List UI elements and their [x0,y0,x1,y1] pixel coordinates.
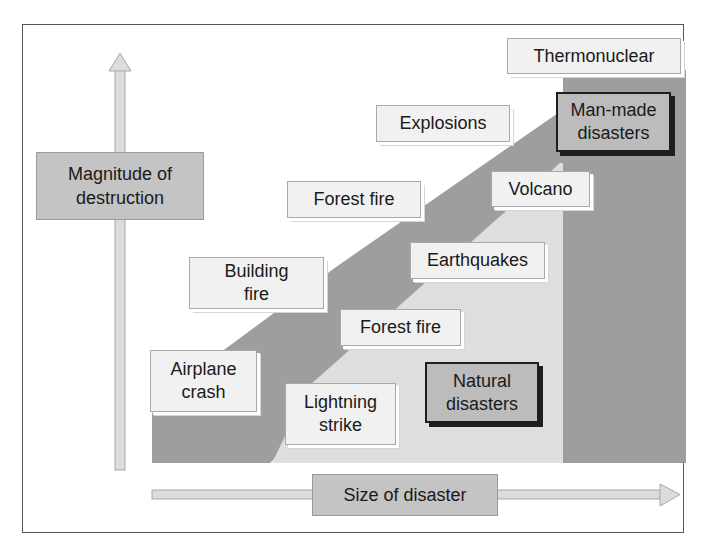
y-axis-arrow [109,53,131,470]
event-explosions: Explosions [376,105,510,142]
x-axis-label: Size of disaster [312,474,498,516]
y-axis-label: Magnitude of destruction [36,152,204,220]
event-lightning-strike: Lightning strike [285,383,396,445]
event-volcano: Volcano [491,171,590,207]
category-man-made: Man-made disasters [556,92,671,152]
event-forest-fire-man-made: Forest fire [287,181,421,218]
event-thermonuclear: Thermonuclear [507,38,681,74]
event-earthquakes: Earthquakes [410,242,545,279]
category-natural: Natural disasters [425,362,539,423]
event-building-fire: Building fire [189,257,324,309]
event-forest-fire-natural: Forest fire [340,309,461,346]
diagram-background [0,0,714,547]
event-airplane-crash: Airplane crash [150,350,257,412]
